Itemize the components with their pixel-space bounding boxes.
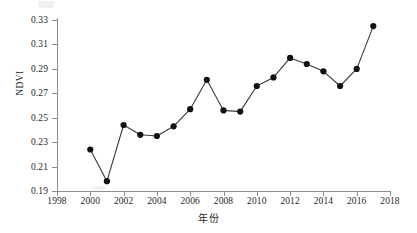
data-point: [187, 106, 193, 112]
data-point: [320, 68, 326, 74]
series-line: [90, 26, 373, 181]
data-point: [354, 66, 360, 72]
data-point: [154, 133, 160, 139]
data-point: [137, 132, 143, 138]
data-point: [287, 55, 293, 61]
data-series-ndvi: [0, 0, 417, 233]
data-point: [337, 83, 343, 89]
data-point: [171, 123, 177, 129]
data-point: [204, 77, 210, 83]
data-point: [220, 107, 226, 113]
data-point: [121, 122, 127, 128]
data-point: [370, 23, 376, 29]
data-point: [104, 178, 110, 184]
data-point: [270, 74, 276, 80]
data-point: [87, 146, 93, 152]
data-point: [254, 83, 260, 89]
series-markers: [87, 23, 376, 184]
ndvi-time-series-chart: 0.190.210.230.250.270.290.310.33 1998200…: [0, 0, 417, 233]
data-point: [237, 109, 243, 115]
data-point: [304, 61, 310, 67]
